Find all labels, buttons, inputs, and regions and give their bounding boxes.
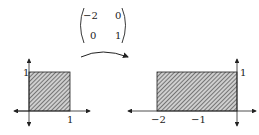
right-paren <box>122 8 126 43</box>
right-plot: 1 −2 −1 <box>128 59 256 126</box>
matrix-r0c0: −2 <box>83 10 98 21</box>
matrix-r1c0: 0 <box>90 30 96 41</box>
transform-arrow-icon <box>81 52 128 57</box>
y-tick-1: 1 <box>23 67 29 78</box>
y-tick-1: 1 <box>240 67 246 78</box>
x-tick-1: 1 <box>67 114 73 125</box>
left-plot: 1 1 <box>14 59 90 126</box>
x-tick-neg1: −1 <box>191 114 206 125</box>
matrix-r0c1: 0 <box>115 10 121 21</box>
matrix-r1c1: 1 <box>115 30 121 41</box>
transformed-rectangle <box>157 72 237 111</box>
transformation-diagram: −2 0 0 1 1 1 1 −2 −1 <box>0 0 259 135</box>
unit-square <box>29 72 70 111</box>
x-tick-neg2: −2 <box>151 114 166 125</box>
matrix: −2 0 0 1 <box>81 8 126 43</box>
